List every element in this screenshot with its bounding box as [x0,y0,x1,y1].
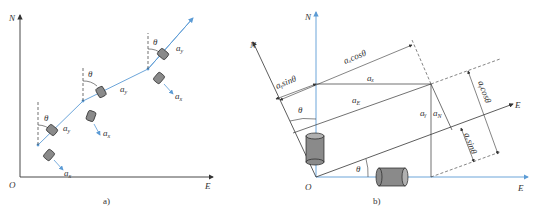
ax-label: ax [103,128,111,139]
theta-label: θ [153,37,158,47]
rotated-e-axis [316,104,513,177]
sensor-y [46,124,59,137]
aE-line [293,84,431,133]
ay-label: ay [176,43,184,54]
ay-label: ay [63,123,71,134]
theta-label: θ [44,113,49,123]
sensor-x [43,149,56,162]
theta-label: θ [356,164,361,174]
ax-cos-label: aₓcosθ [342,48,368,66]
theta-label: θ [298,105,303,115]
sensor-x [86,110,97,122]
ax-label: ax [175,91,183,102]
caption-a: a) [103,196,110,206]
axis-e-label: E [204,181,211,191]
ax-label: aₓ [367,73,375,83]
sensor-y [157,48,170,61]
caption-b: b) [373,196,381,206]
sensor-y [95,86,107,99]
origin-label: O [305,182,312,192]
rotated-e-label: E [514,100,521,110]
axis-n-label: N [8,13,16,23]
aE-label: aE [352,95,361,106]
axis-e-label: E [517,183,524,193]
ax-cos-dim [280,45,412,100]
ay-label: ay [120,84,128,95]
axis-n-label: N [304,12,312,22]
aN-line [431,84,452,130]
ay-label: aᵧ [420,108,427,118]
sensor-vertical [306,133,324,165]
ax-label: ax [64,168,72,179]
sensor-x [153,72,166,85]
panel-a: N E O θ θ θ [8,13,213,206]
diagram-canvas: N E O θ θ θ [0,0,535,213]
trajectory [38,18,193,145]
theta-label: θ [88,69,93,79]
origin-label: O [9,180,16,190]
rotated-n-label: N [249,40,257,50]
ay-sin-label: aᵧsinθ [274,73,298,91]
ax-sin-label: aₓsinθ [462,131,479,156]
sensor-horizontal [376,168,408,186]
panel-b: N E O N E θ θ aₓcosθ aᵧsinθ aₓ aE aᵧ aN [249,12,528,206]
aN-label: aN [433,108,443,119]
